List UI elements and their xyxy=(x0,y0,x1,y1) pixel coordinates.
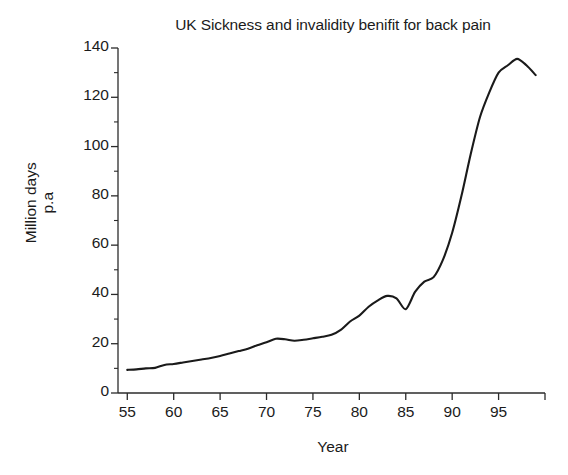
x-axis-tick-label: 95 xyxy=(481,403,517,421)
y-axis-tick-label: 0 xyxy=(63,382,109,400)
data-line-series xyxy=(127,59,535,370)
axis-lines xyxy=(118,48,545,393)
y-axis-tick-label: 140 xyxy=(63,37,109,55)
y-axis-tick-label: 100 xyxy=(63,136,109,154)
y-axis-tick-label: 20 xyxy=(63,333,109,351)
y-axis-tick-label: 60 xyxy=(63,234,109,252)
x-axis-tick-label: 90 xyxy=(434,403,470,421)
x-axis-tick-label: 65 xyxy=(202,403,238,421)
x-axis-tick-label: 55 xyxy=(109,403,145,421)
x-axis-tick-label: 75 xyxy=(295,403,331,421)
chart-figure: UK Sickness and invalidity benifit for b… xyxy=(0,0,568,475)
x-axis-tick-label: 80 xyxy=(341,403,377,421)
y-axis-tick-label: 80 xyxy=(63,185,109,203)
x-axis-tick-label: 60 xyxy=(156,403,192,421)
data-series-layer xyxy=(127,59,535,370)
y-axis-tick-label: 40 xyxy=(63,283,109,301)
y-axis-ticks xyxy=(111,48,118,393)
x-axis-tick-label: 85 xyxy=(388,403,424,421)
x-axis-tick-label: 70 xyxy=(249,403,285,421)
y-axis-tick-label: 120 xyxy=(63,86,109,104)
x-axis-ticks xyxy=(127,393,545,400)
